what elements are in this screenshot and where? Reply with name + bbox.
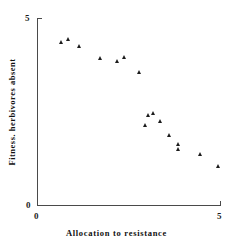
plot-area	[0, 0, 233, 245]
x-axis-tick-label-max: 5	[217, 212, 222, 221]
data-point-marker	[66, 37, 70, 41]
scatter-plot-figure: 5 0 0 5 Allocation to resistance Fitness…	[0, 0, 233, 245]
y-axis-top-tick	[37, 18, 42, 19]
data-point-marker	[176, 142, 180, 146]
data-point-marker	[77, 44, 81, 48]
y-axis-tick-label-min: 0	[26, 201, 31, 210]
x-axis-line	[37, 205, 221, 206]
data-point-marker	[143, 123, 147, 127]
data-point-marker	[176, 147, 180, 151]
data-point-marker	[158, 119, 162, 123]
data-point-marker	[198, 152, 202, 156]
y-axis-title-container: Fitness. herbivores absent	[2, 18, 22, 206]
data-point-marker	[59, 40, 63, 44]
data-point-marker	[216, 164, 220, 168]
x-axis-right-tick	[220, 201, 221, 206]
data-point-marker	[151, 111, 155, 115]
data-point-marker	[98, 56, 102, 60]
data-point-marker	[146, 113, 150, 117]
y-axis-tick-label-max: 5	[25, 14, 30, 23]
y-axis-line	[37, 18, 38, 206]
y-axis-title: Fitness. herbivores absent	[7, 58, 17, 165]
data-point-marker	[122, 55, 126, 59]
data-point-marker	[137, 70, 141, 74]
data-point-marker	[167, 133, 171, 137]
data-point-marker	[115, 59, 119, 63]
x-axis-title: Allocation to resistance	[0, 228, 233, 238]
x-axis-tick-label-min: 0	[34, 212, 39, 221]
